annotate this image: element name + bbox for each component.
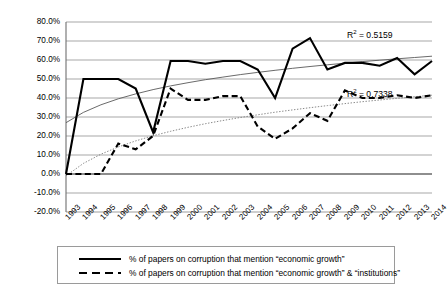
y-axis-tick-9: -10.0% [0,189,60,197]
y-axis-tick-8: 0.0% [0,170,60,178]
legend-swatch-solid-line [78,254,122,264]
y-axis-tick-0: 80.0% [0,18,60,26]
y-axis-tick-5: 30.0% [0,113,60,121]
r2-label-growth-institutions: R2 = 0.7338 [347,88,393,98]
y-axis-tick-10: -20.0% [0,208,60,216]
legend-label-growth-institutions: % of papers on corruption that mention “… [129,269,400,277]
legend-item-growth: % of papers on corruption that mention “… [78,254,345,264]
legend-item-growth-institutions: % of papers on corruption that mention “… [78,268,400,278]
legend-label-growth: % of papers on corruption that mention “… [129,255,345,263]
y-axis-tick-3: 50.0% [0,75,60,83]
y-axis-tick-6: 20.0% [0,132,60,140]
y-axis-tick-7: 10.0% [0,151,60,159]
chart-container: 80.0%70.0%60.0%50.0%40.0%30.0%20.0%10.0%… [0,0,448,295]
y-axis-tick-4: 40.0% [0,94,60,102]
y-axis-tick-1: 70.0% [0,37,60,45]
legend-swatch-dashed-line [78,268,122,278]
chart-legend: % of papers on corruption that mention “… [57,246,395,284]
r2-label-growth: R2 = 0.5159 [347,29,393,39]
y-axis-tick-2: 60.0% [0,56,60,64]
